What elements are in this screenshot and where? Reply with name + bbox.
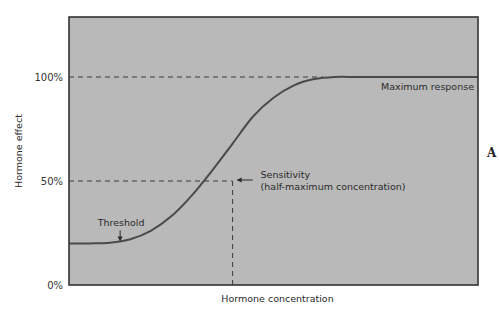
hormone-dose-response-chart: 0%50%100% Hormone effect Hormone concent… bbox=[0, 0, 499, 320]
y-axis-label: Hormone effect bbox=[13, 114, 24, 188]
annotation-maximum-response: Maximum response bbox=[381, 81, 474, 92]
annotation-sensitivity-line: Sensitivity bbox=[261, 169, 311, 180]
plot-area bbox=[69, 17, 478, 285]
x-axis-label: Hormone concentration bbox=[221, 293, 333, 304]
panel-label: A bbox=[486, 146, 497, 160]
y-tick-label: 100% bbox=[34, 72, 63, 83]
annotation-threshold: Threshold bbox=[97, 217, 145, 228]
y-tick-label: 0% bbox=[47, 280, 63, 291]
annotation-sensitivity-line: (half-maximum concentration) bbox=[261, 181, 406, 192]
y-tick-label: 50% bbox=[41, 176, 63, 187]
